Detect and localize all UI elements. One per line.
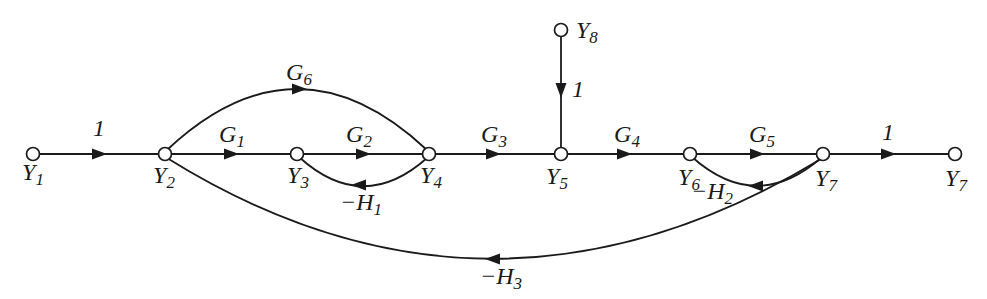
edge-y2-y4-gain-label: G6 (286, 59, 312, 89)
edge-y4-y3-gain-label: −H1 (340, 189, 382, 219)
gain-base: G (219, 121, 236, 147)
gain-base: G (481, 121, 498, 147)
edge-y5-y6-arrowhead (617, 149, 632, 160)
gain-base: −H (480, 263, 515, 289)
edge-y7-y6-arrowhead (748, 181, 763, 192)
node-y7-out-circle (949, 148, 962, 161)
edge-y4-y5-gain-label: G3 (481, 121, 507, 151)
gain-base: G (346, 121, 363, 147)
edge-y7-out-gain-label: 1 (882, 119, 894, 145)
node-y4-circle (423, 148, 436, 161)
edge-y7-y6-gain-label: −H2 (691, 178, 734, 208)
node-subscript: 5 (559, 174, 568, 193)
gain-subscript: 1 (374, 200, 383, 219)
edge-y8-y5-gain-label: 1 (572, 76, 584, 102)
node-subscript: 3 (299, 173, 309, 192)
edge-y7-y2-gain-label: −H3 (480, 263, 522, 293)
gain-base: 1 (93, 115, 105, 141)
edge-y8-y5-arrowhead (556, 83, 567, 98)
gain-subscript: 1 (236, 132, 245, 151)
edge-y6-y7-gain-label: G5 (749, 121, 775, 151)
figure-canvas: Y1 Y2 Y3 Y4 Y5 Y6 Y7 Y7 Y8 1 G1 G2 G3 G4… (0, 0, 987, 299)
gain-subscript: 3 (497, 132, 507, 151)
node-y7-label: Y7 (815, 165, 838, 195)
node-subscript: 7 (958, 176, 968, 195)
edge-y2-y3-gain-label: G1 (219, 121, 245, 151)
node-y5-circle (555, 148, 568, 161)
edge-y1-y2-arrowhead (92, 149, 107, 160)
edge-y2-y4-path (167, 89, 427, 150)
edge-y7-out-arrowhead (881, 149, 896, 160)
gain-subscript: 5 (766, 132, 775, 151)
gain-base: G (286, 59, 303, 85)
node-labels-group: Y1 Y2 Y3 Y4 Y5 Y6 Y7 Y7 Y8 (22, 17, 968, 195)
arrowheads-group (92, 83, 896, 265)
gain-base: −H (691, 178, 726, 204)
gain-subscript: 4 (631, 132, 640, 151)
node-y8-circle (555, 24, 568, 37)
gain-base: G (749, 121, 766, 147)
node-subscript: 7 (828, 176, 838, 195)
node-y8-label: Y8 (576, 17, 598, 47)
signal-flow-graph-svg: Y1 Y2 Y3 Y4 Y5 Y6 Y7 Y7 Y8 1 G1 G2 G3 G4… (0, 0, 987, 299)
node-subscript: 4 (433, 173, 442, 192)
gain-subscript: 2 (363, 132, 372, 151)
node-y6-circle (684, 148, 697, 161)
gain-subscript: 6 (303, 70, 312, 89)
node-subscript: 2 (166, 173, 175, 192)
gain-base: −H (340, 189, 375, 215)
node-y5-label: Y5 (546, 163, 568, 193)
node-subscript: 1 (35, 170, 44, 189)
gain-base: 1 (572, 76, 584, 102)
edge-y6-y7-arrowhead (750, 149, 765, 160)
edge-y5-y6-gain-label: G4 (614, 121, 640, 151)
gain-subscript: 2 (725, 189, 734, 208)
edge-y1-y2-gain-label: 1 (93, 115, 105, 141)
node-y2-circle (159, 148, 172, 161)
edge-y3-y4-gain-label: G2 (346, 121, 372, 151)
gain-base: G (614, 121, 631, 147)
gain-base: 1 (882, 119, 894, 145)
node-y2-label: Y2 (153, 162, 175, 192)
node-y1-label: Y1 (22, 159, 44, 189)
edge-y7-y2-path (167, 158, 821, 259)
node-y4-label: Y4 (420, 162, 442, 192)
gain-subscript: 3 (513, 274, 523, 293)
node-y3-label: Y3 (287, 162, 309, 192)
edges-group (33, 37, 955, 259)
node-y7-out-label: Y7 (945, 165, 968, 195)
node-y7-circle (817, 148, 830, 161)
node-y3-circle (291, 148, 304, 161)
node-subscript: 8 (589, 28, 598, 47)
